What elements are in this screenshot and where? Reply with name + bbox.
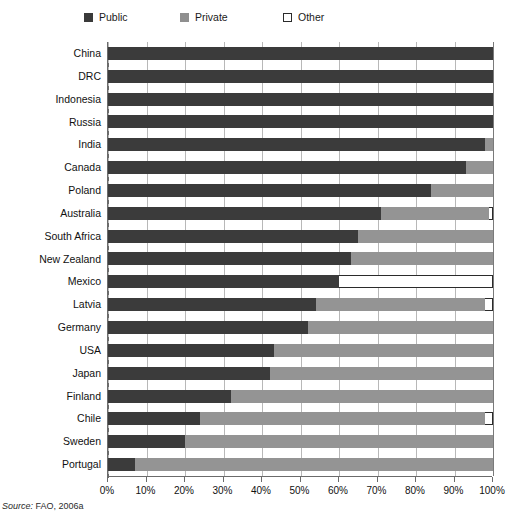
bar-segment-public[interactable]	[108, 184, 431, 197]
bar-row: New Zealand	[108, 248, 493, 271]
bar-rows: ChinaDRCIndonesiaRussiaIndiaCanadaPoland…	[108, 42, 493, 476]
stacked-bar[interactable]	[108, 344, 493, 357]
bar-segment-public[interactable]	[108, 93, 493, 106]
category-label: Chile	[8, 407, 108, 430]
category-label: China	[8, 42, 108, 65]
x-axis-label: 100%	[469, 485, 513, 497]
source-prefix: Source:	[2, 501, 33, 511]
source-note: Source: FAO, 2006a	[2, 501, 84, 512]
stacked-bar[interactable]	[108, 161, 493, 174]
bar-segment-public[interactable]	[108, 412, 200, 425]
category-label: South Africa	[8, 225, 108, 248]
stacked-bar[interactable]	[108, 298, 493, 311]
bar-segment-private[interactable]	[274, 344, 493, 357]
x-axis-tick	[184, 477, 185, 482]
category-label: India	[8, 133, 108, 156]
bar-segment-private[interactable]	[308, 321, 493, 334]
bar-segment-public[interactable]	[108, 435, 185, 448]
bar-row: Indonesia	[108, 88, 493, 111]
bar-segment-private[interactable]	[135, 458, 493, 471]
bar-segment-public[interactable]	[108, 458, 135, 471]
legend-item-other: Other	[283, 11, 324, 23]
x-axis-tick	[223, 477, 224, 482]
bar-segment-other[interactable]	[485, 412, 493, 425]
bar-row: South Africa	[108, 225, 493, 248]
bar-segment-private[interactable]	[381, 207, 489, 220]
category-label: Poland	[8, 179, 108, 202]
stacked-bar[interactable]	[108, 138, 493, 151]
bar-segment-public[interactable]	[108, 70, 493, 83]
bar-segment-public[interactable]	[108, 367, 270, 380]
bar-row: Latvia	[108, 293, 493, 316]
stacked-bar[interactable]	[108, 435, 493, 448]
x-axis-tick	[377, 477, 378, 482]
x-axis-tick	[454, 477, 455, 482]
bar-segment-other[interactable]	[485, 298, 493, 311]
bar-segment-private[interactable]	[485, 138, 493, 151]
bar-row: Canada	[108, 156, 493, 179]
bar-segment-private[interactable]	[231, 390, 493, 403]
dark-square-icon	[84, 13, 93, 22]
plot-frame: ChinaDRCIndonesiaRussiaIndiaCanadaPoland…	[107, 42, 492, 476]
bar-row: Australia	[108, 202, 493, 225]
legend-item-private: Private	[180, 11, 228, 23]
bar-segment-private[interactable]	[351, 252, 493, 265]
bar-segment-private[interactable]	[466, 161, 493, 174]
category-label: New Zealand	[8, 248, 108, 271]
stacked-bar[interactable]	[108, 321, 493, 334]
bar-segment-public[interactable]	[108, 138, 485, 151]
x-axis-tick	[415, 477, 416, 482]
bar-row: Chile	[108, 407, 493, 430]
bar-segment-private[interactable]	[200, 412, 485, 425]
x-axis-tick	[146, 477, 147, 482]
category-label: Germany	[8, 316, 108, 339]
category-label: Latvia	[8, 293, 108, 316]
bar-segment-private[interactable]	[270, 367, 493, 380]
bar-segment-public[interactable]	[108, 115, 493, 128]
bar-segment-public[interactable]	[108, 252, 351, 265]
bar-row: Portugal	[108, 453, 493, 476]
stacked-bar[interactable]	[108, 47, 493, 60]
bar-segment-public[interactable]	[108, 47, 493, 60]
bar-segment-other[interactable]	[339, 275, 493, 288]
bar-row: Mexico	[108, 270, 493, 293]
category-label: Canada	[8, 156, 108, 179]
bar-segment-public[interactable]	[108, 344, 274, 357]
stacked-bar[interactable]	[108, 412, 493, 425]
bar-segment-public[interactable]	[108, 321, 308, 334]
bar-segment-private[interactable]	[316, 298, 485, 311]
category-label: Australia	[8, 202, 108, 225]
stacked-bar[interactable]	[108, 115, 493, 128]
bar-row: Poland	[108, 179, 493, 202]
bar-segment-public[interactable]	[108, 390, 231, 403]
stacked-bar[interactable]	[108, 252, 493, 265]
bar-row: India	[108, 133, 493, 156]
x-axis-tick	[107, 477, 108, 482]
x-axis-tick	[338, 477, 339, 482]
stacked-bar[interactable]	[108, 367, 493, 380]
bar-segment-public[interactable]	[108, 298, 316, 311]
stacked-bar[interactable]	[108, 93, 493, 106]
bar-segment-private[interactable]	[431, 184, 493, 197]
x-axis: 0%10%20%30%40%50%60%70%80%90%100%	[107, 476, 492, 478]
grey-square-icon	[180, 13, 189, 22]
bar-segment-public[interactable]	[108, 275, 339, 288]
bar-segment-private[interactable]	[185, 435, 493, 448]
stacked-bar[interactable]	[108, 70, 493, 83]
stacked-bar[interactable]	[108, 390, 493, 403]
bar-segment-private[interactable]	[358, 230, 493, 243]
legend-label-other: Other	[298, 11, 324, 23]
bar-segment-public[interactable]	[108, 230, 358, 243]
bar-row: USA	[108, 339, 493, 362]
hollow-square-icon	[283, 13, 292, 22]
bar-segment-public[interactable]	[108, 207, 381, 220]
stacked-bar[interactable]	[108, 207, 493, 220]
stacked-bar[interactable]	[108, 458, 493, 471]
bar-segment-public[interactable]	[108, 161, 466, 174]
bar-row: DRC	[108, 65, 493, 88]
stacked-bar[interactable]	[108, 275, 493, 288]
stacked-bar[interactable]	[108, 184, 493, 197]
category-label: Japan	[8, 362, 108, 385]
stacked-bar[interactable]	[108, 230, 493, 243]
bar-segment-other[interactable]	[489, 207, 493, 220]
